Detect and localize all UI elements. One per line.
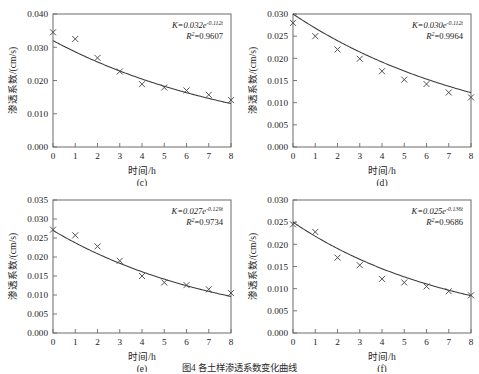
plot-e: 0.0000.0050.0100.0150.0200.0250.0300.035…	[0, 186, 239, 372]
x-tick-label: 3	[357, 337, 362, 347]
figure-container: 0.0000.0100.0200.0300.040012345678K=0.03…	[0, 0, 479, 374]
y-tick-label: 0.010	[27, 290, 48, 300]
x-tick-label: 6	[184, 337, 189, 347]
x-tick-label: 0	[51, 151, 56, 161]
x-tick-label: 8	[229, 337, 234, 347]
x-tick-label: 6	[424, 337, 429, 347]
data-point	[335, 255, 341, 261]
data-point	[401, 77, 407, 83]
panel-letter: (d)	[376, 177, 387, 186]
y-axis-title: 渗透系数/(cm/s)	[7, 233, 19, 300]
y-tick-label: 0.020	[27, 76, 48, 86]
fit-equation-label: K=0.025e-0.136t	[410, 206, 463, 216]
y-tick-label: 0.030	[267, 195, 288, 205]
y-tick-label: 0.025	[27, 233, 48, 243]
x-tick-label: 5	[402, 151, 407, 161]
x-tick-label: 5	[402, 337, 407, 347]
y-tick-label: 0.000	[27, 142, 48, 152]
data-point	[72, 36, 78, 42]
fit-equation-label: K=0.030e-0.112t	[411, 20, 463, 30]
x-axis-title: 时间/h	[368, 165, 396, 176]
x-tick-label: 8	[469, 151, 474, 161]
x-tick-label: 2	[335, 151, 340, 161]
x-tick-label: 8	[229, 151, 234, 161]
y-axis-title: 渗透系数/(cm/s)	[247, 47, 259, 114]
x-tick-label: 1	[313, 337, 318, 347]
y-tick-label: 0.000	[267, 328, 288, 338]
fit-equation-label: K=0.032e-0.112t	[171, 20, 223, 30]
y-tick-label: 0.030	[27, 214, 48, 224]
y-tick-label: 0.005	[267, 120, 288, 130]
x-tick-label: 1	[73, 337, 78, 347]
x-tick-label: 2	[335, 337, 340, 347]
y-tick-label: 0.005	[267, 306, 288, 316]
x-tick-label: 2	[95, 337, 100, 347]
x-tick-label: 4	[140, 151, 145, 161]
y-tick-label: 0.020	[267, 240, 288, 250]
data-point	[312, 33, 318, 39]
y-axis-title: 渗透系数/(cm/s)	[7, 47, 19, 114]
data-point	[379, 276, 385, 282]
x-tick-label: 6	[424, 151, 429, 161]
y-tick-label: 0.010	[27, 109, 48, 119]
data-point	[424, 81, 430, 87]
y-tick-label: 0.025	[267, 31, 288, 41]
data-point	[357, 56, 363, 62]
y-tick-label: 0.030	[27, 43, 48, 53]
data-point	[161, 84, 167, 90]
y-tick-label: 0.010	[267, 284, 288, 294]
x-tick-label: 1	[73, 151, 78, 161]
r-squared-label: R2=0.9607	[185, 31, 223, 41]
y-tick-label: 0.035	[27, 195, 48, 205]
x-tick-label: 0	[291, 151, 296, 161]
data-point	[206, 92, 212, 98]
data-point	[161, 279, 167, 285]
fit-curve	[293, 222, 471, 295]
chart-panel-e: 0.0000.0050.0100.0150.0200.0250.0300.035…	[0, 186, 239, 372]
x-tick-label: 7	[206, 151, 211, 161]
fit-curve	[53, 230, 231, 296]
y-tick-label: 0.015	[267, 76, 288, 86]
x-tick-label: 6	[184, 151, 189, 161]
x-tick-label: 2	[95, 151, 100, 161]
data-point	[139, 81, 145, 87]
chart-panel-c: 0.0000.0100.0200.0300.040012345678K=0.03…	[0, 0, 239, 186]
x-tick-label: 1	[313, 151, 318, 161]
x-tick-label: 3	[357, 151, 362, 161]
fit-equation-label: K=0.027e-0.129t	[170, 206, 223, 216]
figure-caption: 图4 各土样渗透系数变化曲线	[0, 360, 479, 374]
chart-panel-d: 0.0000.0050.0100.0150.0200.0250.03001234…	[240, 0, 479, 186]
x-tick-label: 4	[380, 337, 385, 347]
data-point	[335, 46, 341, 52]
y-tick-label: 0.020	[27, 252, 48, 262]
data-point	[379, 68, 385, 74]
x-tick-label: 5	[162, 151, 167, 161]
y-tick-label: 0.000	[27, 328, 48, 338]
x-tick-label: 7	[446, 337, 451, 347]
data-point	[95, 243, 101, 249]
data-point	[401, 279, 407, 285]
y-axis-title: 渗透系数/(cm/s)	[247, 233, 259, 300]
y-tick-label: 0.015	[27, 271, 48, 281]
x-tick-label: 3	[117, 337, 122, 347]
chart-panel-f: 0.0000.0050.0100.0150.0200.0250.03001234…	[240, 186, 479, 372]
x-tick-label: 3	[117, 151, 122, 161]
x-tick-label: 0	[51, 337, 56, 347]
y-tick-label: 0.000	[267, 142, 288, 152]
x-tick-label: 4	[380, 151, 385, 161]
r-squared-label: R2=0.9686	[425, 217, 463, 227]
data-point	[312, 229, 318, 235]
data-point	[446, 288, 452, 294]
plot-c: 0.0000.0100.0200.0300.040012345678K=0.03…	[0, 0, 239, 186]
r-squared-label: R2=0.9964	[425, 31, 463, 41]
x-tick-label: 7	[446, 151, 451, 161]
y-tick-label: 0.010	[267, 98, 288, 108]
fit-curve	[53, 41, 231, 104]
x-axis-title: 时间/h	[128, 165, 156, 176]
y-tick-label: 0.025	[267, 217, 288, 227]
y-tick-label: 0.030	[267, 9, 288, 19]
x-tick-label: 5	[162, 337, 167, 347]
y-tick-label: 0.020	[267, 54, 288, 64]
data-point	[72, 232, 78, 238]
x-tick-label: 0	[291, 337, 296, 347]
